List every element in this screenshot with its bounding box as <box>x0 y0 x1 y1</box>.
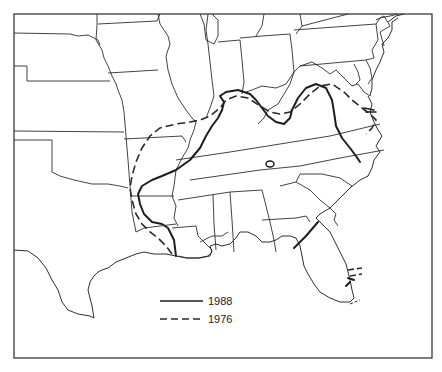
coastlines <box>14 14 404 318</box>
legend-1988-label: 1988 <box>208 295 232 307</box>
isoline-1976 <box>130 84 376 304</box>
map: 1988 1976 <box>0 0 442 372</box>
legend: 1988 1976 <box>160 295 232 325</box>
legend-1976-label: 1976 <box>208 313 232 325</box>
